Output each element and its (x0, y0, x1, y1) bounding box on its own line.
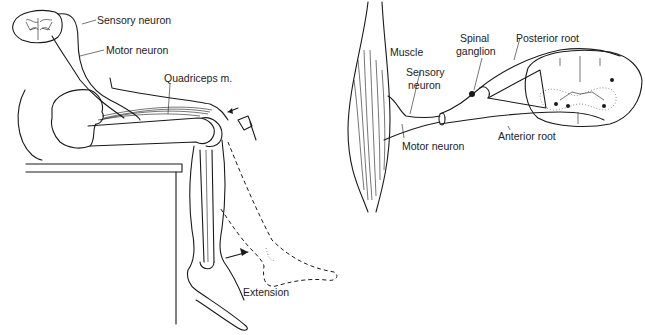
spinal-cord-section-small (13, 10, 62, 42)
label-extension: Extension (243, 286, 289, 298)
label-anterior-root: Anterior root (498, 130, 556, 142)
label-spinal-ganglion-line1: Spinal (460, 32, 489, 44)
label-sensory-neuron-right-line2: neuron (408, 79, 441, 91)
label-quadriceps: Quadriceps m. (164, 72, 232, 84)
label-spinal-ganglion-line2: ganglion (456, 45, 496, 57)
label-motor-neuron-right: Motor neuron (402, 140, 465, 152)
reflex-diagram: Sensory neuron Motor neuron Quadriceps m… (0, 0, 645, 335)
right-panel-reflex-arc: Muscle Sensory neuron Motor neuron Spina… (348, 2, 642, 212)
muscle-illustration (348, 2, 390, 212)
label-sensory-neuron-right-line1: Sensory (406, 66, 445, 78)
spinal-ganglion-dot (469, 91, 475, 97)
label-motor-neuron-left: Motor neuron (106, 44, 169, 56)
reflex-hammer-icon (228, 108, 256, 140)
label-muscle: Muscle (390, 46, 423, 58)
label-sensory-neuron-left: Sensory neuron (97, 14, 171, 26)
left-panel-knee-jerk: Sensory neuron Motor neuron Quadriceps m… (13, 10, 337, 330)
label-posterior-root: Posterior root (516, 32, 579, 44)
